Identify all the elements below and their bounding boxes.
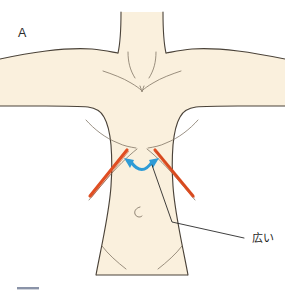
body-silhouette-group	[0, 12, 285, 275]
panel-label: A	[18, 26, 27, 40]
figure-container: A 広い	[0, 0, 285, 295]
torso-illustration-svg: A 広い	[0, 0, 285, 295]
callout-label-hiroi: 広い	[252, 232, 274, 245]
footer-partial-bar	[17, 287, 39, 289]
